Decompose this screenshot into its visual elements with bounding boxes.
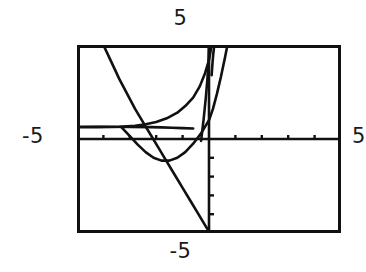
window-ymax-label: 5 xyxy=(0,8,361,29)
window-xmax-label: 5 xyxy=(352,126,366,147)
graph-svg xyxy=(77,45,341,233)
window-ymin-label: -5 xyxy=(0,241,361,262)
graph-plot-area xyxy=(77,45,341,233)
window-xmin-label: -5 xyxy=(22,126,44,147)
